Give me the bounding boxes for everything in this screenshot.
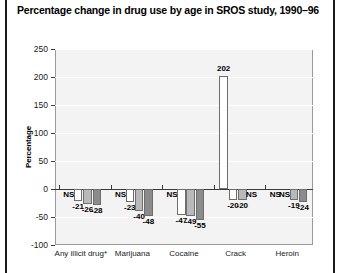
y-axis-tick bbox=[51, 49, 55, 50]
bar bbox=[144, 189, 153, 216]
x-axis-category-label: Marijuana bbox=[115, 249, 150, 258]
y-axis-tick bbox=[51, 77, 55, 78]
gridline bbox=[55, 133, 313, 134]
y-axis-tick-label: 100 bbox=[34, 128, 48, 138]
plot-wrapper: Percentage 250200150100500-50-100Any ill… bbox=[55, 49, 313, 245]
gridline bbox=[55, 105, 313, 106]
bar bbox=[93, 189, 102, 205]
y-axis-tick bbox=[51, 133, 55, 134]
figure-container: Percentage change in drug use by age in … bbox=[0, 0, 347, 273]
bar bbox=[135, 189, 144, 211]
bar bbox=[186, 189, 195, 216]
right-border-rule bbox=[333, 0, 335, 273]
y-axis-tick bbox=[51, 189, 55, 190]
bar bbox=[219, 76, 228, 189]
not-significant-label: NS bbox=[279, 190, 290, 199]
x-axis-category-label: Cocaine bbox=[169, 249, 198, 258]
y-axis-tick-label: 150 bbox=[34, 100, 48, 110]
x-axis-category-label: Heroin bbox=[275, 249, 299, 258]
y-axis-tick-label: 200 bbox=[34, 72, 48, 82]
bar bbox=[290, 189, 299, 200]
y-axis-tick bbox=[51, 217, 55, 218]
gridline bbox=[55, 49, 313, 50]
bar bbox=[196, 189, 205, 220]
not-significant-label: NS bbox=[115, 190, 126, 199]
y-axis-tick bbox=[51, 245, 55, 246]
x-axis-category-label: Any illicit drug* bbox=[55, 249, 107, 258]
bar-value-label: -48 bbox=[143, 217, 155, 226]
bar-value-label: -23 bbox=[124, 203, 136, 212]
bar bbox=[126, 189, 135, 202]
bar bbox=[177, 189, 186, 215]
gridline bbox=[55, 245, 313, 246]
y-axis-title: Percentage bbox=[24, 126, 33, 168]
x-axis-group-tick bbox=[111, 185, 112, 189]
gridline bbox=[55, 77, 313, 78]
left-border-rule bbox=[5, 0, 7, 273]
y-axis-tick-label: -50 bbox=[36, 212, 48, 222]
y-axis-tick-label: 250 bbox=[34, 44, 48, 54]
bar-value-label: -20 bbox=[236, 201, 248, 210]
bar-value-label: -55 bbox=[194, 221, 206, 230]
bar bbox=[229, 189, 238, 200]
x-axis-group-tick bbox=[214, 185, 215, 189]
chart-title: Percentage change in drug use by age in … bbox=[17, 4, 327, 17]
bar bbox=[83, 189, 92, 204]
x-axis-group-tick bbox=[59, 185, 60, 189]
x-axis-group-tick bbox=[265, 185, 266, 189]
y-axis-tick-label: -100 bbox=[31, 240, 48, 250]
y-axis-tick-label: 0 bbox=[43, 184, 48, 194]
not-significant-label: NS bbox=[246, 190, 257, 199]
y-axis-tick bbox=[51, 105, 55, 106]
bar bbox=[74, 189, 83, 201]
x-axis-category-label: Crack bbox=[225, 249, 246, 258]
y-axis-tick bbox=[51, 161, 55, 162]
bar bbox=[299, 189, 308, 202]
bar-value-label: -24 bbox=[297, 203, 309, 212]
bar-value-label: -28 bbox=[91, 206, 103, 215]
y-axis-tick-label: 50 bbox=[39, 156, 48, 166]
gridline bbox=[55, 161, 313, 162]
bar-value-label: 202 bbox=[217, 64, 230, 73]
x-axis-group-tick bbox=[162, 185, 163, 189]
not-significant-label: NS bbox=[63, 190, 74, 199]
not-significant-label: NS bbox=[166, 190, 177, 199]
